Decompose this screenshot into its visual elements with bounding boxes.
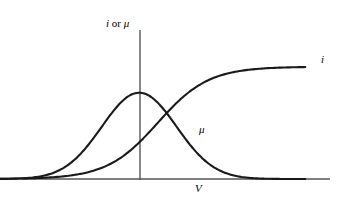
y-axis-label-mu: μ bbox=[124, 17, 130, 29]
figure-canvas: i or μ V i μ bbox=[0, 0, 352, 204]
y-axis-label: i or μ bbox=[106, 18, 129, 29]
curve-i bbox=[0, 67, 305, 179]
chart-plot-area bbox=[0, 0, 352, 204]
curve-mu bbox=[0, 93, 305, 179]
y-axis-label-or: or bbox=[109, 17, 124, 29]
curve-label-mu: μ bbox=[199, 124, 205, 135]
curve-label-i: i bbox=[321, 54, 324, 65]
x-axis-label: V bbox=[195, 183, 202, 194]
